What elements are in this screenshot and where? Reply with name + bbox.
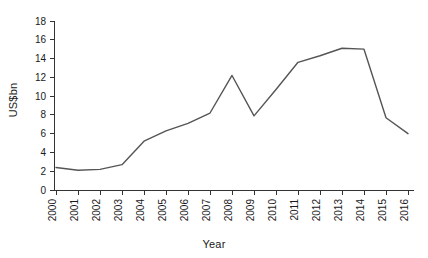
x-axis-tick-label: 2005	[157, 199, 168, 222]
y-axis: 024681012141618	[35, 16, 54, 196]
x-axis-tick-label: 2014	[355, 199, 366, 222]
y-axis-tick-label: 16	[35, 34, 47, 45]
y-axis-tick-label: 0	[40, 185, 46, 196]
y-axis-tick-label: 12	[35, 72, 47, 83]
x-axis-tick-label: 2013	[333, 199, 344, 222]
x-axis-tick-label: 2010	[267, 199, 278, 222]
y-axis-tick-label: 18	[35, 16, 47, 27]
x-axis-tick-label: 2016	[399, 199, 410, 222]
x-axis-tick-label: 2015	[377, 199, 388, 222]
data-series-group	[56, 48, 408, 170]
x-axis-tick-label: 2003	[113, 199, 124, 222]
x-axis-tick-label: 2012	[311, 199, 322, 222]
x-axis-tick-label: 2009	[245, 199, 256, 222]
x-axis-tick-label: 2000	[47, 199, 58, 222]
y-axis-tick-label: 2	[40, 166, 46, 177]
y-axis-tick-label: 4	[40, 147, 46, 158]
y-axis-tick-label: 8	[40, 109, 46, 120]
line-chart: 024681012141618 200020012002200320042005…	[0, 0, 428, 258]
x-axis-tick-label: 2011	[289, 199, 300, 221]
x-axis-tick-label: 2004	[135, 199, 146, 222]
x-axis: 2000200120022003200420052006200720082009…	[47, 190, 414, 221]
chart-plot-area: 024681012141618 200020012002200320042005…	[0, 0, 428, 258]
x-axis-tick-label: 2006	[179, 199, 190, 222]
data-series-line	[56, 48, 408, 170]
x-axis-tick-label: 2002	[91, 199, 102, 222]
x-axis-tick-label: 2008	[223, 199, 234, 222]
x-axis-tick-label: 2001	[69, 199, 80, 222]
x-axis-tick-label: 2007	[201, 199, 212, 222]
y-axis-tick-label: 6	[40, 128, 46, 139]
y-axis-tick-label: 10	[35, 91, 47, 102]
y-axis-tick-label: 14	[35, 53, 47, 64]
